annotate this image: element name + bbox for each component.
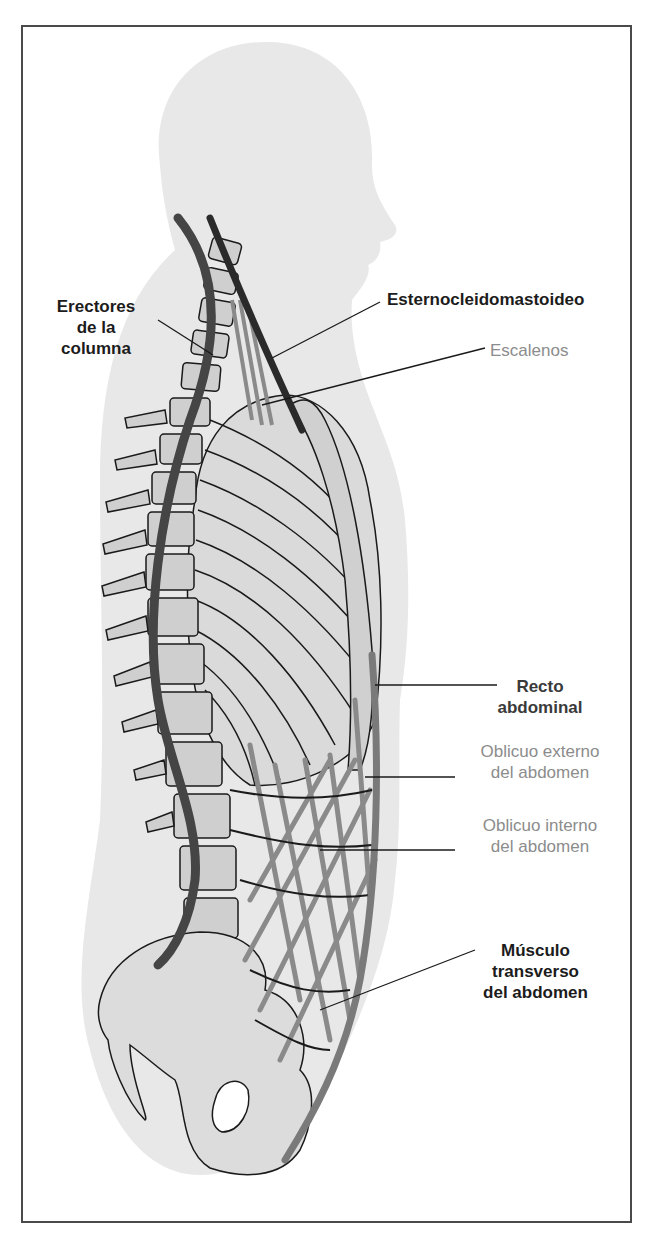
label-transverso-abdomen: Músculo transverso del abdomen bbox=[468, 940, 603, 1003]
label-recto-abdominal: Recto abdominal bbox=[480, 676, 600, 718]
label-recto-line1: Recto bbox=[480, 676, 600, 697]
label-transverso-line2: transverso bbox=[468, 961, 603, 982]
anatomy-illustration bbox=[0, 0, 656, 1251]
label-oblicuo-externo: Oblicuo externo del abdomen bbox=[450, 741, 630, 783]
label-transverso-line3: del abdomen bbox=[468, 982, 603, 1003]
label-escalenos: Escalenos bbox=[490, 340, 568, 361]
label-oblicuo-interno: Oblicuo interno del abdomen bbox=[450, 815, 630, 857]
label-erectores-columna: Erectores de la columna bbox=[36, 296, 156, 359]
label-recto-line2: abdominal bbox=[480, 697, 600, 718]
label-erectores-line3: columna bbox=[36, 338, 156, 359]
label-oblicuo-externo-line2: del abdomen bbox=[450, 762, 630, 783]
label-esternocleidomastoideo: Esternocleidomastoideo bbox=[387, 289, 584, 310]
label-erectores-line2: de la bbox=[36, 317, 156, 338]
label-oblicuo-interno-line1: Oblicuo interno bbox=[450, 815, 630, 836]
label-transverso-line1: Músculo bbox=[468, 940, 603, 961]
label-oblicuo-interno-line2: del abdomen bbox=[450, 836, 630, 857]
label-oblicuo-externo-line1: Oblicuo externo bbox=[450, 741, 630, 762]
label-erectores-line1: Erectores bbox=[36, 296, 156, 317]
